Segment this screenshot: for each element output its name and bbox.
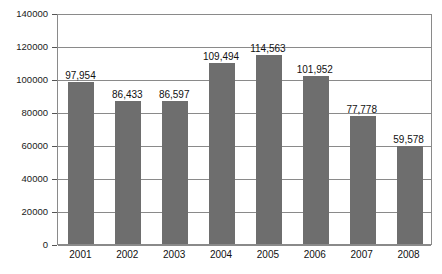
gridline: [58, 80, 431, 81]
bar-value-label: 97,954: [50, 70, 110, 81]
bar: [115, 101, 141, 244]
y-axis-tick-label: 60000: [0, 141, 48, 151]
bar: [303, 76, 329, 244]
bar-chart: 020000400006000080000100000120000140000 …: [0, 0, 442, 274]
y-axis-tick-label: 20000: [0, 207, 48, 217]
y-axis-tick-label: 40000: [0, 174, 48, 184]
bar: [350, 116, 376, 244]
y-axis-tick-label: 0: [0, 240, 48, 250]
y-axis-tick-label: 120000: [0, 42, 48, 52]
bar: [162, 101, 188, 244]
bar-value-label: 86,597: [144, 89, 204, 100]
y-axis-tick: [52, 245, 57, 246]
gridline: [58, 245, 431, 246]
bar: [256, 55, 282, 244]
y-axis-tick-label: 80000: [0, 108, 48, 118]
y-axis-tick-label: 100000: [0, 75, 48, 85]
y-axis-tick: [52, 179, 57, 180]
y-axis-tick: [52, 212, 57, 213]
y-axis-tick: [52, 113, 57, 114]
x-axis-category-label: 2008: [379, 249, 439, 261]
bar: [209, 63, 235, 244]
y-axis-tick-label: 140000: [0, 9, 48, 19]
bar-value-label: 59,578: [379, 134, 439, 145]
bar-value-label: 114,563: [238, 43, 298, 54]
y-axis-tick: [52, 146, 57, 147]
gridline: [58, 14, 431, 15]
y-axis-tick: [52, 14, 57, 15]
bar: [68, 82, 94, 244]
y-axis-tick: [52, 47, 57, 48]
bar-value-label: 101,952: [285, 64, 345, 75]
bar-value-label: 77,778: [332, 104, 392, 115]
bar: [397, 146, 423, 244]
